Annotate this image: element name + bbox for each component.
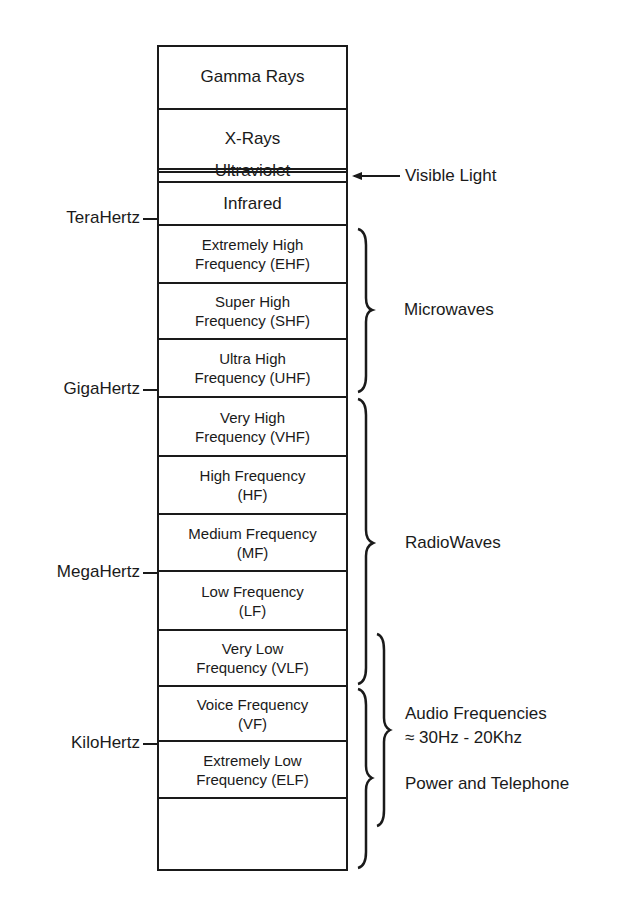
radiowaves-label: RadioWaves	[405, 531, 501, 555]
power-telephone-label: Power and Telephone	[405, 772, 569, 796]
audio-brace-icon	[377, 634, 390, 826]
power-telephone-brace-icon	[358, 689, 372, 868]
microwaves-brace-icon	[358, 229, 372, 392]
audio-frequencies-label: Audio Frequencies	[405, 702, 547, 726]
visible-light-label: Visible Light	[405, 164, 496, 188]
visible-light-arrow-icon	[352, 172, 400, 180]
microwaves-label: Microwaves	[404, 298, 494, 322]
audio-range-label: ≈ 30Hz - 20Khz	[405, 726, 522, 750]
radiowaves-brace-icon	[358, 399, 373, 684]
